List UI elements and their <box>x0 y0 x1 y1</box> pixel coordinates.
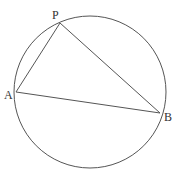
label-a: A <box>4 88 13 102</box>
label-b: B <box>164 110 172 124</box>
segment-pb <box>60 23 160 113</box>
label-p: P <box>52 8 59 22</box>
circle <box>14 16 166 168</box>
circle-diagram: P A B <box>0 0 182 179</box>
segment-ab <box>16 92 160 113</box>
